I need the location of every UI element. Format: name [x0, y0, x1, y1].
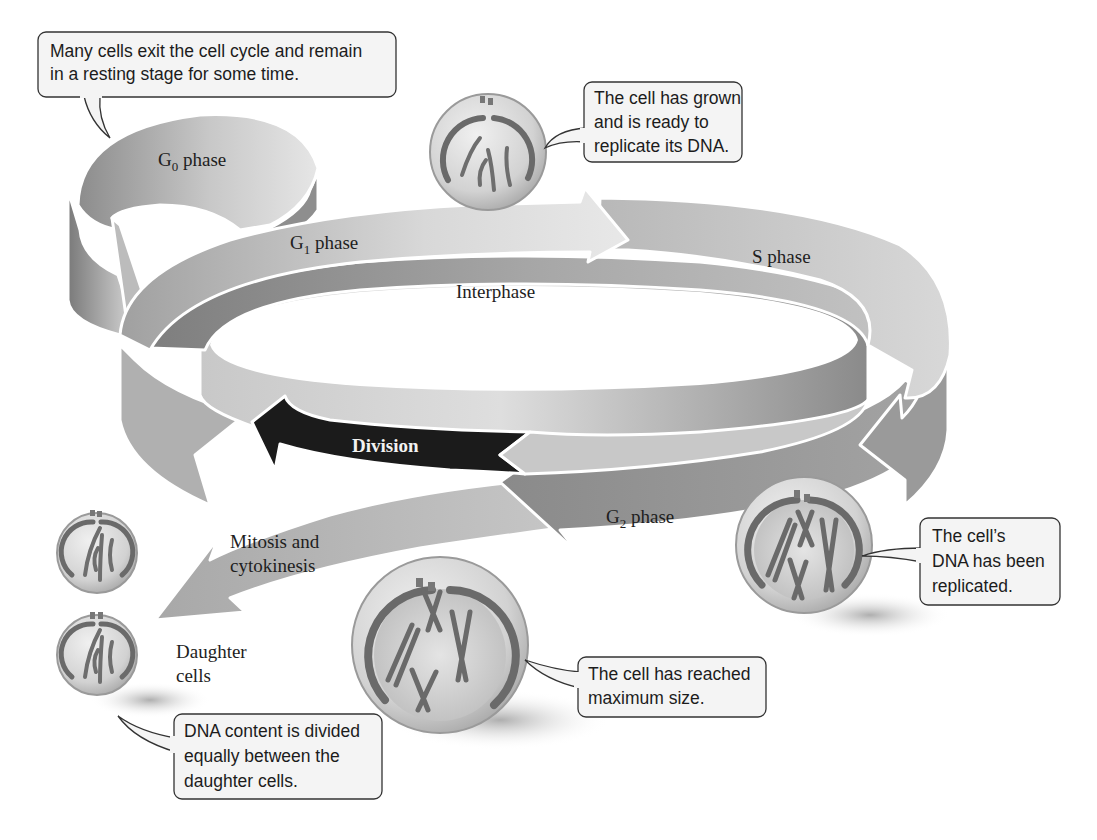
mitosis-label-line2: cytokinesis	[230, 555, 316, 576]
cell-g1-grown	[430, 94, 546, 210]
cell-g2-replicated	[736, 477, 872, 613]
daughter-label-line2: cells	[176, 665, 211, 686]
callout-max-size-line2: maximum size.	[588, 688, 705, 708]
interphase-label: Interphase	[456, 281, 535, 302]
callout-max-size-line1: The cell has reached	[588, 664, 750, 684]
callout-grown-line3: replicate its DNA.	[594, 136, 729, 156]
callout-replicated-line3: replicated.	[932, 576, 1013, 596]
callout-grown: The cell has grown and is ready to repli…	[545, 82, 742, 162]
cell-max-size	[352, 557, 528, 733]
callout-resting-line1: Many cells exit the cell cycle and remai…	[50, 41, 362, 61]
callout-grown-line1: The cell has grown	[594, 88, 741, 108]
daughter-cell-top	[57, 510, 137, 593]
cell-cycle-diagram: G0 phase Interphase Division G1 phase S …	[0, 0, 1097, 840]
g0-top-band	[78, 115, 318, 230]
callout-divided-line1: DNA content is divided	[184, 721, 360, 741]
callout-resting-line2: in a resting stage for some time.	[50, 64, 299, 84]
callout-replicated-line1: The cell’s	[932, 526, 1006, 546]
daughter-label-line1: Daughter	[176, 641, 247, 662]
division-label: Division	[352, 435, 419, 456]
callout-divided: DNA content is divided equally between t…	[118, 714, 382, 799]
callout-grown-line2: and is ready to	[594, 112, 709, 132]
callout-divided-line3: daughter cells.	[184, 771, 298, 791]
s-phase-label: S phase	[752, 246, 811, 267]
callout-replicated-line2: DNA has been	[932, 551, 1045, 571]
callout-replicated: The cell’s DNA has been replicated.	[862, 518, 1060, 605]
callout-divided-line2: equally between the	[184, 746, 340, 766]
mitosis-label-line1: Mitosis and	[230, 531, 320, 552]
daughter-cell-bottom	[57, 612, 137, 695]
